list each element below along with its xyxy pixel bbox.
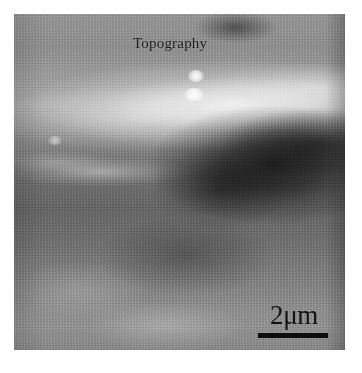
scale-bar: 2μm xyxy=(258,302,330,338)
micrograph-image: Topography 2μm xyxy=(14,14,345,350)
figure-page: Topography 2μm xyxy=(0,0,362,373)
topography-label: Topography xyxy=(133,36,207,51)
scale-bar-line xyxy=(258,333,328,338)
scale-bar-label: 2μm xyxy=(258,302,330,329)
